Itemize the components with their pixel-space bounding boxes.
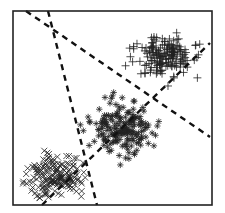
scatter-plot: [0, 0, 225, 213]
